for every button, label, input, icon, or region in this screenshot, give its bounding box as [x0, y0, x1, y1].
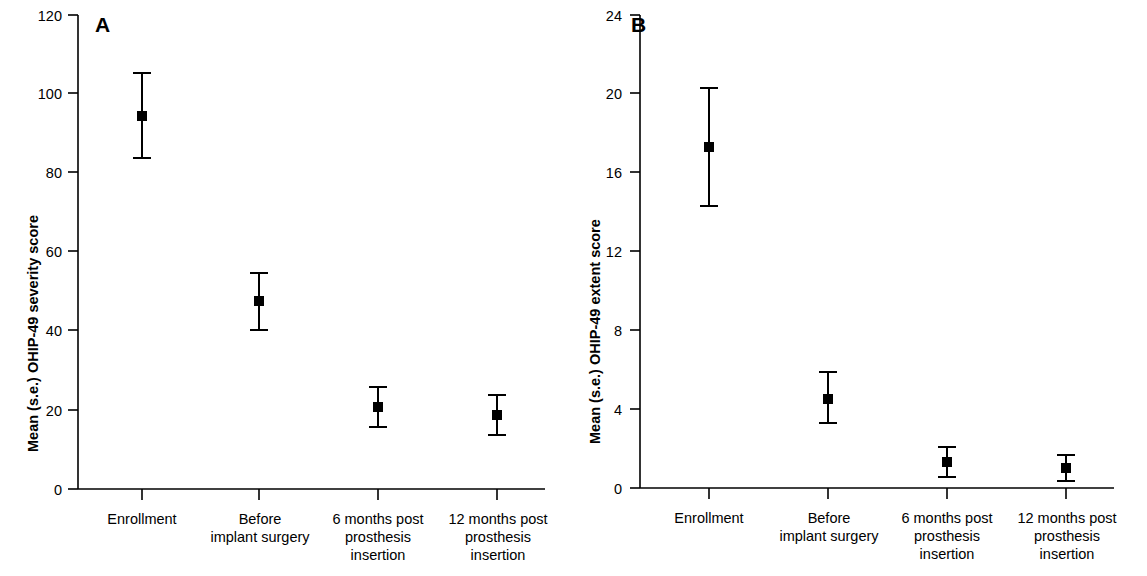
y-tick-label-b-8: 8	[580, 324, 622, 339]
y-tick-label-a-120: 120	[14, 9, 62, 24]
plot-area-a	[0, 0, 573, 576]
data-point-b-1	[700, 88, 718, 206]
data-point-b-3	[938, 447, 956, 477]
y-tick-label-a-60: 60	[14, 245, 62, 260]
y-tick-label-a-0: 0	[14, 483, 62, 498]
y-tick-label-a-100: 100	[14, 87, 62, 102]
data-point-b-4	[1057, 455, 1075, 481]
y-axis-ticks-a	[68, 15, 78, 489]
y-axis-ticks-b	[630, 15, 640, 488]
y-tick-label-b-24: 24	[580, 9, 622, 24]
x-tick-label-a-4: 12 months post prosthesis insertion	[428, 510, 568, 564]
panel-a: A Mean (s.e.) OHIP-49 severity score	[0, 0, 573, 576]
x-axis-ticks-a	[142, 489, 497, 500]
figure-canvas: A Mean (s.e.) OHIP-49 severity score	[0, 0, 1147, 576]
data-point-b-2	[819, 372, 837, 423]
x-tick-label-b-4: 12 months post prosthesis insertion	[997, 509, 1137, 563]
x-tick-label-b-3: 6 months post prosthesis insertion	[879, 509, 1015, 563]
plot-area-b	[574, 0, 1147, 576]
y-tick-label-a-80: 80	[14, 166, 62, 181]
x-axis-ticks-b	[709, 488, 1066, 499]
y-tick-label-b-20: 20	[580, 87, 622, 102]
y-tick-label-b-12: 12	[580, 245, 622, 260]
y-tick-label-a-20: 20	[14, 404, 62, 419]
data-point-a-4	[488, 395, 506, 435]
data-point-a-1	[133, 73, 151, 158]
data-point-a-3	[369, 387, 387, 427]
x-tick-label-a-3: 6 months post prosthesis insertion	[310, 510, 446, 564]
y-tick-label-b-4: 4	[580, 403, 622, 418]
panel-b: B Mean (s.e.) OHIP-49 extent score	[574, 0, 1147, 576]
data-point-a-2	[250, 273, 268, 330]
y-tick-label-b-0: 0	[580, 482, 622, 497]
y-tick-label-a-40: 40	[14, 324, 62, 339]
y-tick-label-b-16: 16	[580, 166, 622, 181]
